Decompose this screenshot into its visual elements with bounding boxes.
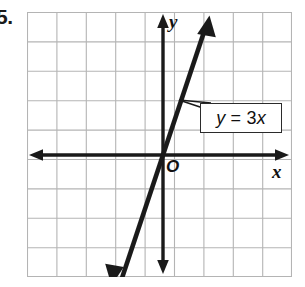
equation-variable: x <box>257 108 266 128</box>
equation-callout-box: y = 3x <box>200 103 282 133</box>
equation-operator: = <box>231 108 242 128</box>
equation-lhs: y <box>216 108 225 128</box>
equation-label: y = 3x <box>216 109 266 127</box>
graph-canvas <box>27 12 292 277</box>
coordinate-graph: y = 3x y x O <box>27 12 292 277</box>
equation-coefficient: 3 <box>246 108 256 128</box>
problem-number: 5. <box>0 2 26 32</box>
graph-background <box>27 12 292 277</box>
figure-root: 5. <box>0 0 305 287</box>
x-axis-label: x <box>272 162 282 181</box>
y-axis-label: y <box>169 12 177 31</box>
origin-label: O <box>166 158 179 175</box>
